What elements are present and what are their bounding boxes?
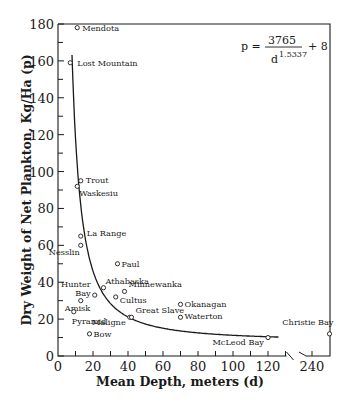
formula-denominator-base: d — [271, 53, 278, 66]
marker-circle-icon — [327, 332, 331, 336]
x-tick-label: 60 — [155, 359, 172, 374]
y-tick-label: 180 — [29, 17, 54, 32]
data-point: Okanagan — [178, 299, 227, 309]
x-tick-label: 80 — [190, 359, 207, 374]
x-tick-label: 120 — [256, 359, 281, 374]
y-tick-label: 0 — [46, 349, 54, 364]
point-label: Great Slave — [136, 305, 185, 315]
y-axis-title: Dry Weight of Net Plankton, Kg/Ha (p) — [19, 54, 34, 325]
formula-annotation: p = 3765 d 1.5337 + 8 — [241, 34, 328, 66]
x-tick-label: 0 — [54, 359, 62, 374]
data-point: HunterBay — [61, 279, 97, 298]
y-tick-label: 80 — [37, 201, 54, 216]
data-point: Lost Mountain — [68, 58, 138, 68]
point-label: Christie Bay — [282, 317, 334, 327]
data-point: Great Slave — [129, 305, 184, 319]
point-label: Waskesiu — [79, 188, 118, 198]
x-axis: 020406080100120240 — [54, 351, 325, 374]
data-point: McLeod Bay — [212, 335, 270, 346]
marker-circle-icon — [87, 332, 91, 336]
point-label: Bay — [75, 288, 91, 298]
marker-circle-icon — [101, 286, 105, 290]
data-point: Christie Bay — [282, 317, 334, 336]
data-point: Maligne — [92, 315, 132, 327]
point-label: Cultus — [120, 295, 147, 305]
marker-circle-icon — [178, 302, 182, 306]
point-label: Lost Mountain — [77, 58, 138, 68]
marker-circle-icon — [114, 295, 118, 299]
point-label: Amisk — [64, 303, 91, 313]
formula-denominator-exp: 1.5337 — [279, 50, 307, 59]
point-label: Paul — [122, 259, 140, 269]
point-label: Nesslin — [49, 247, 81, 257]
x-tick-label: 100 — [221, 359, 246, 374]
marker-circle-icon — [178, 315, 182, 319]
point-label: La Range — [87, 228, 127, 238]
marker-circle-icon — [266, 335, 270, 339]
point-label: Bow — [94, 329, 112, 339]
marker-circle-icon — [75, 26, 79, 30]
data-point: Bow — [87, 329, 111, 339]
data-point: Amisk — [64, 299, 91, 313]
point-label: Maligne — [92, 317, 126, 327]
point-label: Minnewanka — [129, 279, 183, 289]
marker-circle-icon — [68, 61, 72, 65]
formula-lhs: p = — [241, 40, 261, 53]
point-label: Okanagan — [185, 299, 228, 309]
x-tick-label: 240 — [300, 359, 325, 374]
chart: 020406080100120140160180 020406080100120… — [0, 0, 348, 400]
marker-circle-icon — [72, 310, 76, 314]
marker-circle-icon — [129, 315, 133, 319]
point-label: Trout — [86, 175, 110, 185]
data-points: MendotaLost MountainTroutWaskesiuLa Rang… — [49, 23, 334, 347]
marker-circle-icon — [79, 234, 83, 238]
x-axis-title: Mean Depth, meters (d) — [96, 374, 264, 389]
point-label: Waterton — [185, 311, 224, 321]
point-label: McLeod Bay — [212, 337, 264, 347]
formula-numerator: 3765 — [268, 34, 296, 47]
data-point: Minnewanka — [122, 279, 182, 293]
data-point: Trout — [79, 175, 110, 185]
marker-circle-icon — [93, 293, 97, 297]
y-axis: 020406080100120140160180 — [29, 17, 64, 364]
x-tick-label: 40 — [120, 359, 137, 374]
marker-circle-icon — [122, 289, 126, 293]
data-point: Mendota — [75, 23, 119, 33]
x-tick-label: 20 — [85, 359, 102, 374]
y-tick-label: 20 — [37, 312, 54, 327]
data-point: Paul — [115, 259, 139, 269]
point-label: Mendota — [82, 23, 119, 33]
data-point: Waskesiu — [75, 184, 118, 198]
marker-circle-icon — [79, 179, 83, 183]
data-point: La Range — [79, 228, 127, 238]
marker-circle-icon — [115, 262, 119, 266]
formula-tail: + 8 — [308, 40, 328, 53]
y-tick-label: 40 — [37, 275, 54, 290]
data-point: Cultus — [114, 295, 147, 305]
data-point: Waterton — [178, 311, 223, 321]
